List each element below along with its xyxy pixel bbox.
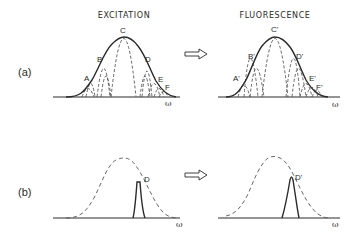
excitation-title: EXCITATION — [98, 12, 151, 20]
arrow-icon — [185, 49, 207, 59]
point-label: D — [145, 56, 151, 64]
narrow-excitation-line — [133, 182, 145, 218]
fluorescence-title: FLUORESCENCE — [240, 12, 311, 20]
arrow-icon — [185, 170, 207, 180]
panel-label-a: (a) — [18, 67, 31, 78]
point-label: D' — [295, 174, 302, 182]
panel-b-fluorescence — [218, 157, 340, 219]
diagram-canvas — [0, 0, 358, 236]
broad-envelope-dashed — [226, 157, 330, 219]
point-label: F — [165, 84, 170, 92]
point-label: B — [97, 56, 102, 64]
point-label: F' — [316, 84, 322, 92]
axis-label-omega: ω — [165, 100, 172, 108]
axis-label-omega: ω — [332, 101, 339, 109]
panel-a-excitation — [53, 37, 180, 97]
point-label: A' — [233, 75, 240, 83]
point-label: C' — [271, 26, 278, 34]
axis-label-omega: ω — [332, 221, 339, 229]
homogeneous-lines — [82, 39, 168, 98]
point-label: A — [84, 75, 89, 83]
panel-label-b: (b) — [18, 187, 31, 198]
narrow-fluorescence-line — [282, 177, 299, 218]
point-label: D' — [296, 53, 303, 61]
excitation-envelope — [66, 37, 176, 97]
point-label: B' — [248, 53, 255, 61]
axis-label-omega: ω — [176, 221, 183, 229]
point-label: D — [144, 176, 150, 184]
panel-b-excitation — [53, 158, 180, 218]
point-label: E — [158, 76, 163, 84]
point-label: C — [120, 27, 126, 35]
point-label: E' — [309, 75, 316, 83]
homogeneous-lines — [238, 39, 322, 98]
broad-envelope-dashed — [66, 158, 178, 218]
